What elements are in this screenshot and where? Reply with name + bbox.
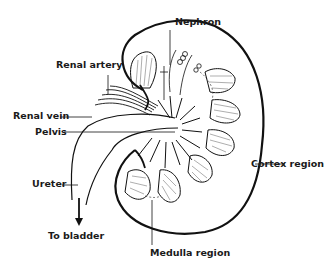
nephron-detail: [160, 50, 201, 100]
label-nephron: Nephron: [175, 17, 221, 27]
pelvis-shape-inner: [86, 128, 178, 205]
label-renal-artery: Renal artery: [56, 60, 122, 70]
label-ureter: Ureter: [32, 179, 67, 189]
corticomedullary-boundary-lower: [145, 196, 160, 198]
label-medulla-region: Medulla region: [150, 248, 230, 258]
kidney-outline: [115, 20, 263, 233]
label-to-bladder: To bladder: [48, 231, 104, 241]
label-pelvis: Pelvis: [35, 127, 67, 137]
to-bladder-arrow-icon: [75, 218, 83, 226]
pyramid-striations: [130, 55, 238, 200]
medulla-pyramids: [125, 52, 240, 202]
pelvis-shape: [71, 114, 175, 200]
label-renal-vein: Renal vein: [13, 111, 69, 121]
renal-vessels: [95, 86, 158, 115]
label-cortex-region: Cortex region: [251, 159, 324, 169]
